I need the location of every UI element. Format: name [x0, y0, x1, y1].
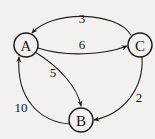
edge-b-to-a: 10: [15, 57, 71, 124]
edge-c-to-b: 2: [94, 57, 142, 120]
edge-a-to-b: 5: [35, 52, 81, 106]
edge-weight-a-to-c: 6: [79, 37, 86, 52]
edge-weight-c-to-b: 2: [136, 90, 143, 105]
edge-c-to-a: 3: [32, 11, 131, 36]
node-c[interactable]: C: [128, 33, 152, 57]
graph-diagram: 3 6 5 10 2 A B: [0, 0, 155, 139]
graph-canvas: 3 6 5 10 2 A B: [0, 0, 155, 139]
edge-c-to-b-path: [94, 57, 142, 120]
node-c-label: C: [135, 38, 145, 54]
node-b-label: B: [76, 113, 86, 129]
node-a-label: A: [21, 38, 32, 54]
edge-weight-c-to-a: 3: [79, 11, 86, 26]
edge-a-to-c: 6: [38, 37, 127, 54]
edge-a-to-b-path: [35, 52, 81, 106]
edge-weight-a-to-b: 5: [50, 65, 57, 80]
node-b[interactable]: B: [69, 108, 93, 132]
edge-weight-b-to-a: 10: [15, 100, 28, 115]
node-a[interactable]: A: [14, 33, 38, 57]
